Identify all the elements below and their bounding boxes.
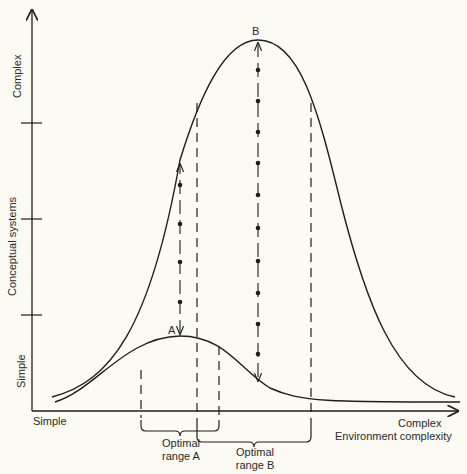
x-axis-low-label: Simple [33, 416, 67, 427]
y-axis-high-label: Complex [12, 55, 23, 98]
y-axis [21, 10, 42, 411]
x-axis-title: Environment complexity [335, 431, 452, 442]
optimal-range-a-line1: Optimal [155, 437, 207, 450]
curve-b [52, 40, 455, 397]
optimal-range-a-bounds [141, 346, 219, 418]
diagram-canvas [0, 0, 467, 474]
optimal-range-a-label: Optimal range A [155, 437, 207, 463]
arrow-b-vertical [256, 43, 261, 381]
optimal-range-b-bounds [197, 103, 311, 420]
optimal-range-b-line1: Optimal [228, 446, 282, 459]
optimal-range-b-line2: range B [228, 459, 282, 472]
optimal-range-b-label: Optimal range B [228, 446, 282, 472]
brace-range-b [197, 420, 311, 447]
optimal-range-a-line2: range A [155, 450, 207, 463]
curve-a-label: A [168, 325, 175, 336]
curve-b-label: B [252, 26, 259, 37]
y-axis-low-label: Simple [16, 354, 27, 388]
diagram-figure: B A Complex Conceptual systems Simple Si… [0, 0, 467, 474]
brace-range-a [141, 420, 219, 436]
arrow-a-vertical [178, 164, 183, 334]
y-axis-title: Conceptual systems [7, 197, 18, 296]
x-axis-high-label: Complex [398, 418, 441, 429]
